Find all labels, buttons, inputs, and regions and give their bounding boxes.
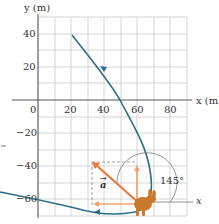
x-tick-80: 80 bbox=[164, 105, 177, 115]
x-tick-40: 40 bbox=[97, 105, 110, 115]
y-tick-neg20: −20 bbox=[16, 128, 37, 138]
y-tick-40: 40 bbox=[23, 29, 36, 39]
vector-arrow-mark: → bbox=[100, 174, 107, 182]
local-x-label: x bbox=[196, 196, 202, 206]
y-axis-label: y (m) bbox=[24, 3, 50, 13]
x-tick-20: 20 bbox=[64, 105, 77, 115]
x-tick-60: 60 bbox=[131, 105, 144, 115]
angle-label: 145° bbox=[160, 176, 184, 186]
x-axis-label: x (m) bbox=[196, 96, 219, 106]
axes bbox=[1, 14, 192, 218]
y-tick-neg40: −40 bbox=[16, 161, 37, 171]
direction-arrow-lower bbox=[94, 209, 100, 215]
x-tick-0: 0 bbox=[30, 105, 36, 115]
y-tick-20: 20 bbox=[23, 62, 36, 72]
grid bbox=[38, 17, 187, 216]
vector-label: → a bbox=[100, 180, 106, 190]
y-tick-neg60: −60 bbox=[16, 194, 37, 204]
